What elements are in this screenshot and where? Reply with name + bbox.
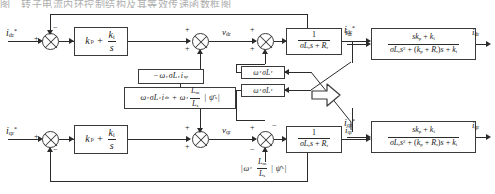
d-axis-sum-1 xyxy=(42,33,59,50)
d-axis-plant-block: 1 σLrs + Rr xyxy=(286,28,342,55)
d-axis-sum-2 xyxy=(192,33,209,50)
wire-d-feedback-top xyxy=(50,14,308,15)
d-axis-flux-feedforward-box: ωrσLridr + ωr Lm Ls | ψ̄s| xyxy=(124,87,236,109)
wire-gainB-drop xyxy=(236,90,237,120)
q-axis-sum-2 xyxy=(192,131,209,148)
arrow-q-flux xyxy=(262,147,268,152)
d-sum3-plus-a: + xyxy=(250,26,255,34)
arrow-d-feedback xyxy=(47,30,53,35)
equivalent-d-input-label: idr* xyxy=(344,25,355,36)
arrow-q-feedback xyxy=(47,147,53,152)
d-axis-feedforward-coupling-box: −ωrσLriqr xyxy=(138,69,204,84)
decoupling-gain-box-top: ωrσLr xyxy=(241,66,285,79)
decoupling-gain-box-bottom: ωrσLr xyxy=(241,84,285,97)
d-sum2-plus-b: + xyxy=(185,45,190,53)
diagram-canvas: 图 转子电流内环控制结构及其等效传递函数框图 idr* + − kp + ki … xyxy=(0,0,495,194)
d-axis-voltage-label: vdr xyxy=(222,28,231,38)
q-sum3-minus-a: − xyxy=(272,122,277,130)
q-sum3-minus-b: − xyxy=(250,146,255,154)
q-axis-pi-controller: kp + ki s xyxy=(74,125,128,154)
d-axis-sum-3 xyxy=(257,33,274,50)
wire-d-sum2-to-sum3 xyxy=(209,41,256,42)
q-sum1-minus: − xyxy=(53,146,58,154)
q-axis-flux-feedforward-term: |ωr Lm Ls | ψ̄s| xyxy=(241,158,286,179)
equivalent-q-input-label: iqr* xyxy=(344,118,355,129)
d-axis-reference-label: idr* xyxy=(6,28,17,39)
wire-gainA-to-sum3 xyxy=(236,64,265,65)
wire-d-pi-to-sum2 xyxy=(128,41,190,42)
wire-gainB-to-sum3q xyxy=(236,120,265,121)
equivalence-arrow-icon xyxy=(311,82,341,112)
d-axis-pi-controller: kp + ki s xyxy=(74,27,128,56)
equivalent-q-output-label: iqr xyxy=(472,121,479,131)
wire-ff2-link xyxy=(180,84,181,87)
q-axis-voltage-label: vqr xyxy=(222,126,231,136)
wire-gainA-riser xyxy=(236,64,237,72)
q-sum2-plus-a: + xyxy=(185,124,190,132)
q-sum1-plus: + xyxy=(34,133,39,141)
wire-q-feedback-up xyxy=(50,148,51,182)
arrow-eq-d-out xyxy=(486,41,491,47)
arrow-q-ff xyxy=(197,128,203,133)
d-sum1-minus: − xyxy=(53,24,58,32)
wire-gainA-left xyxy=(236,72,241,73)
arrow-gainA-in xyxy=(284,69,289,75)
arrow-d-ff1 xyxy=(197,49,203,54)
wire-q-feedback-bottom xyxy=(50,181,308,182)
d-sum1-plus: + xyxy=(34,35,39,43)
arrow-eq-q-out xyxy=(486,134,491,140)
clipped-caption-text: 图 转子电流内环控制结构及其等效传递函数框图 xyxy=(0,0,495,8)
q-sum3-plus: + xyxy=(250,124,255,132)
wire-q-pi-to-sum2 xyxy=(128,139,190,140)
arrow-d-decouple xyxy=(262,49,268,54)
q-axis-reference-label: iqr* xyxy=(6,126,17,137)
wire-q-sum2-to-sum3 xyxy=(209,139,256,140)
q-axis-plant-block: 1 σLrs + Rr xyxy=(286,126,342,153)
d-sum3-plus-b: + xyxy=(250,45,255,53)
q-sum2-plus-b: + xyxy=(185,143,190,151)
q-axis-sum-3 xyxy=(257,131,274,148)
equivalent-d-transfer-block: skp + ki σLrs2 + (kp + Rr)s + ki xyxy=(371,28,476,60)
equivalent-d-output-label: idr xyxy=(472,28,479,38)
equivalent-q-transfer-block: skp + ki σLrs2 + (kp + Rr)s + ki xyxy=(371,121,476,153)
d-sum2-plus-a: + xyxy=(185,26,190,34)
arrow-gainB-in xyxy=(284,87,289,93)
